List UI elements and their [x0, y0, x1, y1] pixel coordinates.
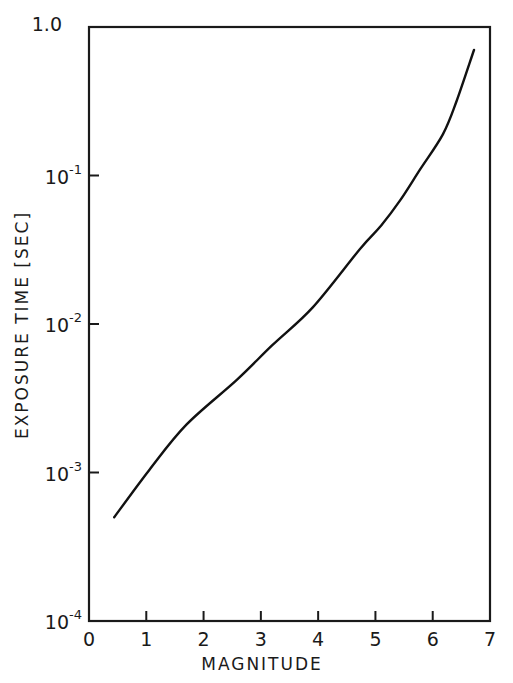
data-series	[114, 50, 474, 517]
y-tick-label: 1.0	[32, 13, 62, 35]
x-axis-title: MAGNITUDE	[201, 654, 323, 674]
x-tick-label: 7	[484, 628, 496, 650]
y-tick-label: 10-2	[45, 310, 82, 336]
y-axis-title: EXPOSURE TIME [SEC]	[12, 211, 32, 439]
y-tick-label: 10-1	[45, 162, 82, 188]
x-tick-label: 0	[83, 628, 95, 650]
x-tick-label: 6	[427, 628, 439, 650]
x-tick-label: 1	[140, 628, 152, 650]
x-tick-label: 3	[255, 628, 267, 650]
y-tick-label: 10-4	[45, 607, 82, 633]
plot-frame	[89, 27, 490, 621]
x-axis-ticks: 01234567	[83, 611, 496, 650]
chart: 01234567 1.010-110-210-310-4 MAGNITUDE E…	[0, 0, 513, 683]
exposure-curve	[114, 50, 474, 517]
x-tick-label: 2	[198, 628, 210, 650]
y-tick-label: 10-3	[45, 459, 82, 485]
x-tick-label: 5	[369, 628, 381, 650]
x-tick-label: 4	[312, 628, 324, 650]
